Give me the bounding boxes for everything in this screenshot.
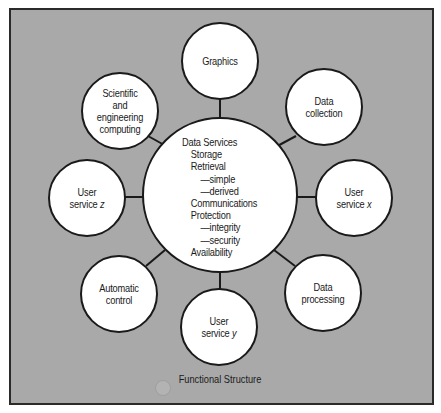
label-line: computing [85, 123, 155, 135]
service-item: Communications [182, 197, 257, 209]
label-word: service [70, 198, 98, 210]
label-line: control [84, 294, 154, 306]
label-user-service-z: User service z [52, 186, 122, 210]
library-stamp-icon [155, 380, 171, 396]
service-item: Retrieval [182, 160, 257, 172]
data-services-list: Data Services Storage Retrieval —simple … [182, 136, 257, 258]
label-line: collection [289, 107, 359, 119]
label-user-service-x: User service x [319, 186, 389, 210]
service-subitem: —security [182, 234, 257, 246]
label-data-collection: Data collection [289, 95, 359, 119]
label-variable: x [367, 198, 371, 210]
label-line: service x [319, 198, 389, 210]
label-line: Data [288, 281, 358, 293]
label-line: Graphics [185, 55, 255, 67]
label-data-processing: Data processing [288, 281, 358, 305]
label-line: and [85, 99, 155, 111]
label-word: service [337, 198, 365, 210]
label-word: service [202, 327, 230, 339]
label-variable: z [100, 198, 104, 210]
data-services-heading: Data Services [182, 136, 257, 148]
figure-caption: Functional Structure [176, 373, 264, 385]
service-item: Storage [182, 148, 257, 160]
label-user-service-y: User service y [184, 315, 254, 339]
label-line: service y [184, 327, 254, 339]
label-line: User [184, 315, 254, 327]
label-line: Scientific [85, 87, 155, 99]
edge-automatic-control [146, 250, 165, 266]
service-subitem: —derived [182, 185, 257, 197]
label-line: processing [288, 293, 358, 305]
label-graphics: Graphics [185, 55, 255, 67]
label-line: service z [52, 198, 122, 210]
label-scientific-engineering-computing: Scientific and engineering computing [85, 87, 155, 135]
service-subitem: —simple [182, 173, 257, 185]
service-item: Protection [182, 209, 257, 221]
edge-data-processing [274, 250, 295, 266]
label-variable: y [232, 327, 236, 339]
label-line: User [319, 186, 389, 198]
label-line: User [52, 186, 122, 198]
service-item: Availability [182, 246, 257, 258]
label-line: Automatic [84, 282, 154, 294]
label-automatic-control: Automatic control [84, 282, 154, 306]
service-subitem: —integrity [182, 221, 257, 233]
label-line: Data [289, 95, 359, 107]
label-line: engineering [85, 111, 155, 123]
